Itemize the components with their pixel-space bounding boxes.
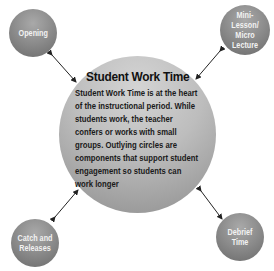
catch-releases-label: Catch and Releases — [15, 233, 56, 253]
student-work-time-circle: Student Work Time Student Work Time is a… — [59, 56, 216, 213]
center-title: Student Work Time — [86, 70, 189, 84]
center-description: Student Work Time is at the heart of the… — [75, 87, 201, 191]
arrow-debrief — [201, 191, 222, 219]
debrief-time-label: Debrief Time — [220, 227, 261, 247]
mini-lesson-circle: Mini-Lesson/ Micro Lecture — [220, 5, 270, 55]
arrow-mini-lesson — [196, 51, 220, 79]
catch-releases-circle: Catch and Releases — [11, 219, 59, 267]
arrow-opening — [52, 55, 76, 82]
opening-circle: Opening — [9, 9, 57, 57]
debrief-time-circle: Debrief Time — [216, 213, 264, 261]
opening-label: Opening — [18, 28, 47, 38]
mini-lesson-label: Mini-Lesson/ Micro Lecture — [224, 10, 267, 50]
arrow-catch-releases — [55, 190, 78, 217]
